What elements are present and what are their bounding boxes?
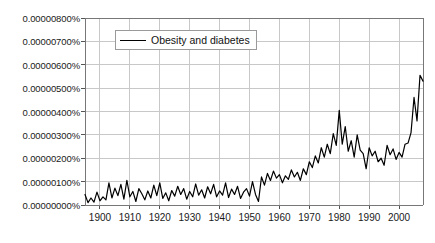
x-axis-tick-label: 1950	[238, 212, 260, 223]
x-axis-tick-label: 2000	[388, 212, 410, 223]
x-axis-tick-label: 1980	[328, 212, 350, 223]
y-axis-tick-label: 0.00000100%	[2, 176, 80, 187]
x-axis-tick-label: 1930	[179, 212, 201, 223]
y-axis-tick-label: 0.00000200%	[2, 153, 80, 164]
legend-label-obesity-and-diabetes: Obesity and diabetes	[151, 34, 250, 46]
y-axis-tick-label: 0.00000800%	[2, 13, 80, 24]
x-axis-tick-label: 1910	[119, 212, 141, 223]
ngram-line-chart: 0.00000800%0.00000700%0.00000600%0.00000…	[0, 0, 435, 243]
x-axis-tick-label: 1900	[89, 212, 111, 223]
y-axis-tick-label: 0.00000500%	[2, 83, 80, 94]
x-axis-tick-label: 1990	[358, 212, 380, 223]
y-axis-labels: 0.00000800%0.00000700%0.00000600%0.00000…	[0, 0, 80, 243]
legend-line-swatch-obesity-and-diabetes	[120, 40, 146, 41]
y-axis-tick-label: 0.00000300%	[2, 129, 80, 140]
x-axis-tick-label: 1970	[298, 212, 320, 223]
x-axis-tick-label: 1940	[208, 212, 230, 223]
chart-legend[interactable]: Obesity and diabetes	[115, 30, 257, 50]
x-axis-tick-label: 1960	[268, 212, 290, 223]
data-series-layer	[85, 75, 423, 202]
y-axis-tick-label: 0.00000000%	[2, 200, 80, 211]
y-axis-tick-label: 0.00000700%	[2, 36, 80, 47]
x-axis-tick-label: 1920	[149, 212, 171, 223]
data-line-obesity-and-diabetes	[85, 75, 423, 202]
y-axis-tick-label: 0.00000600%	[2, 59, 80, 70]
y-axis-tick-label: 0.00000400%	[2, 106, 80, 117]
